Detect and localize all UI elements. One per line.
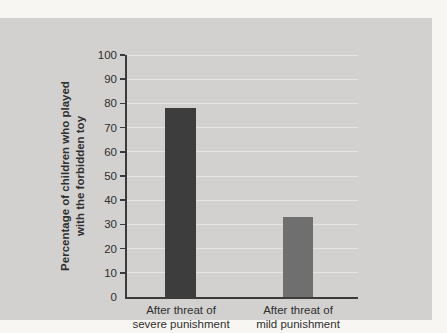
gridline-100 (127, 55, 358, 56)
y-tick-label-50: 50 (77, 169, 117, 183)
bar-mild-punishment (283, 217, 313, 297)
gridline-30 (127, 224, 358, 225)
y-tick-mark-100 (120, 54, 125, 56)
gridline-80 (127, 103, 358, 104)
gridline-40 (127, 200, 358, 201)
y-tick-label-70: 70 (77, 121, 117, 135)
y-tick-label-10: 10 (77, 266, 117, 280)
plot-area: 0102030405060708090100 (125, 55, 358, 299)
y-tick-label-20: 20 (77, 242, 117, 256)
y-tick-label-40: 40 (77, 193, 117, 207)
y-tick-mark-40 (120, 199, 125, 201)
x-category-label-mild-line1: After threat of (223, 303, 373, 317)
y-tick-label-100: 100 (77, 48, 117, 62)
y-tick-mark-70 (120, 127, 125, 129)
y-tick-label-30: 30 (77, 217, 117, 231)
y-tick-mark-60 (120, 151, 125, 153)
y-axis-title-line1: Percentage of children who played (58, 81, 73, 271)
y-tick-mark-80 (120, 103, 125, 105)
y-tick-mark-30 (120, 224, 125, 226)
gridline-20 (127, 248, 358, 249)
gridline-90 (127, 79, 358, 80)
gridline-10 (127, 272, 358, 273)
chart-panel: Percentage of children who played with t… (0, 18, 432, 320)
y-tick-mark-50 (120, 175, 125, 177)
y-tick-label-80: 80 (77, 96, 117, 110)
y-tick-mark-90 (120, 78, 125, 80)
gridline-70 (127, 127, 358, 128)
x-category-label-mild: After threat of mild punishment (223, 303, 373, 331)
y-tick-label-90: 90 (77, 72, 117, 86)
gridline-50 (127, 176, 358, 177)
y-tick-label-0: 0 (77, 290, 117, 304)
bar-severe-punishment (165, 108, 196, 297)
y-tick-mark-20 (120, 248, 125, 250)
y-tick-mark-10 (120, 272, 125, 274)
gridline-60 (127, 151, 358, 152)
x-category-label-mild-line2: mild punishment (223, 317, 373, 331)
y-tick-label-60: 60 (77, 145, 117, 159)
